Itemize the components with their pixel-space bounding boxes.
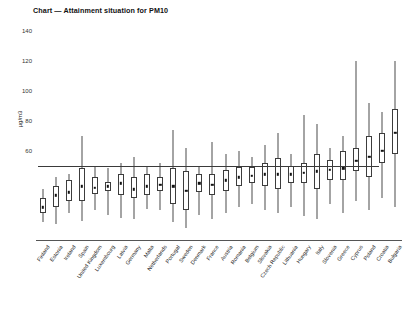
median-marker <box>381 149 383 151</box>
median-marker <box>94 187 96 189</box>
box-plot-item[interactable] <box>324 24 337 240</box>
whisker-line <box>107 168 108 214</box>
x-axis-line <box>36 240 402 241</box>
box-plot-item[interactable] <box>363 24 376 240</box>
y-tick-label: 120 <box>22 58 32 64</box>
y-axis-label: µg/m3 <box>17 111 23 128</box>
box-plot-item[interactable] <box>180 24 193 240</box>
y-tick-label: 80 <box>25 118 32 124</box>
y-tick-label: 60 <box>25 148 32 154</box>
median-marker <box>211 184 213 186</box>
box-plot-item[interactable] <box>193 24 206 240</box>
box-plot-item[interactable] <box>101 24 114 240</box>
box-plot-item[interactable] <box>311 24 324 240</box>
median-marker <box>224 179 226 181</box>
x-tick-label: Italy <box>314 244 325 256</box>
median-marker <box>303 172 305 174</box>
x-tick-label: Cyprus <box>349 244 364 262</box>
box-plot-item[interactable] <box>62 24 75 240</box>
box-plot-item[interactable] <box>389 24 402 240</box>
chart-page: Chart — Attainment situation for PM10 µg… <box>0 0 406 314</box>
box-plot-item[interactable] <box>36 24 49 240</box>
chart-title: Chart — Attainment situation for PM10 <box>33 6 168 15</box>
box-plot-item[interactable] <box>167 24 180 240</box>
median-marker <box>355 160 357 162</box>
median-marker <box>67 191 69 193</box>
box-plot-item[interactable] <box>376 24 389 240</box>
x-axis-labels: FinlandEstoniaIrelandSpainUnited Kingdom… <box>36 244 402 312</box>
median-marker <box>329 169 331 171</box>
median-marker <box>120 182 122 184</box>
box-plot-item[interactable] <box>154 24 167 240</box>
box-iqr <box>53 186 59 207</box>
median-marker <box>250 175 252 177</box>
limit-value-reference-line <box>38 166 379 167</box>
median-marker <box>316 170 318 172</box>
median-marker <box>146 185 148 187</box>
x-tick-label: Ireland <box>62 244 77 261</box>
median-marker <box>172 185 174 187</box>
box-iqr <box>92 177 98 193</box>
box-plot-item[interactable] <box>350 24 363 240</box>
median-marker <box>368 155 370 157</box>
median-marker <box>277 173 279 175</box>
box-plot-item[interactable] <box>75 24 88 240</box>
box-plot-item[interactable] <box>114 24 127 240</box>
box-plot-item[interactable] <box>49 24 62 240</box>
median-marker <box>159 184 161 186</box>
box-plot-item[interactable] <box>245 24 258 240</box>
plot-area: µg/m3 6080100120140 <box>36 24 402 240</box>
box-plot-item[interactable] <box>271 24 284 240</box>
box-plot-item[interactable] <box>128 24 141 240</box>
median-marker <box>107 185 109 187</box>
box-plot-item[interactable] <box>297 24 310 240</box>
y-tick-label: 140 <box>22 28 32 34</box>
box-plot-item[interactable] <box>258 24 271 240</box>
median-marker <box>394 132 396 134</box>
median-marker <box>237 176 239 178</box>
box-plot-item[interactable] <box>88 24 101 240</box>
box-plot-item[interactable] <box>337 24 350 240</box>
box-iqr <box>379 133 385 163</box>
median-marker <box>198 182 200 184</box>
x-tick-label: France <box>206 244 221 261</box>
median-marker <box>133 188 135 190</box>
box-plot-item[interactable] <box>141 24 154 240</box>
y-tick-label: 100 <box>22 88 32 94</box>
box-plot-item[interactable] <box>232 24 245 240</box>
median-marker <box>54 194 56 196</box>
median-marker <box>81 185 83 187</box>
box-plot-item[interactable] <box>206 24 219 240</box>
box-plot-item[interactable] <box>219 24 232 240</box>
whisker-line <box>356 61 357 201</box>
median-marker <box>41 206 43 208</box>
median-marker <box>264 173 266 175</box>
box-iqr <box>118 174 124 195</box>
box-plot-item[interactable] <box>284 24 297 240</box>
median-marker <box>185 190 187 192</box>
median-marker <box>290 173 292 175</box>
median-marker <box>342 167 344 169</box>
